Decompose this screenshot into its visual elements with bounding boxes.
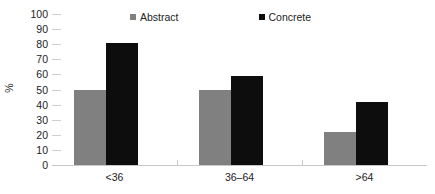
y-tick-label: 80 — [36, 39, 48, 50]
x-tick-label: >64 — [302, 171, 427, 183]
bar-concrete-0 — [106, 43, 138, 165]
bar-chart: Abstract Concrete % 01020304050607080901… — [0, 0, 435, 194]
y-tick-label: 30 — [36, 115, 48, 126]
bar-abstract-1 — [199, 90, 231, 166]
y-tick-label: 60 — [36, 69, 48, 80]
bar-concrete-2 — [356, 102, 388, 165]
y-tick-label: 50 — [36, 85, 48, 96]
x-tick-label: 36–64 — [177, 171, 302, 183]
y-axis-title: % — [3, 83, 15, 92]
y-tick-label: 70 — [36, 54, 48, 65]
y-axis-tick-labels: 0102030405060708090100 — [16, 0, 48, 194]
plot-area — [52, 14, 427, 165]
x-axis-line — [52, 165, 427, 166]
bar-abstract-2 — [324, 132, 356, 165]
y-tick-label: 40 — [36, 100, 48, 111]
bar-abstract-0 — [74, 90, 106, 166]
y-tick-label: 20 — [36, 130, 48, 141]
bar-group — [302, 14, 427, 165]
y-tick-label: 10 — [36, 145, 48, 156]
bar-group — [177, 14, 302, 165]
y-tick-label: 100 — [30, 9, 48, 20]
x-axis-tick-labels: <3636–64>64 — [52, 171, 427, 187]
x-axis-category-divider — [302, 160, 303, 166]
bar-group — [52, 14, 177, 165]
x-axis-category-divider — [177, 160, 178, 166]
x-tick-label: <36 — [52, 171, 177, 183]
bar-concrete-1 — [231, 76, 263, 165]
y-tick-label: 90 — [36, 24, 48, 35]
y-tick-label: 0 — [42, 160, 48, 171]
